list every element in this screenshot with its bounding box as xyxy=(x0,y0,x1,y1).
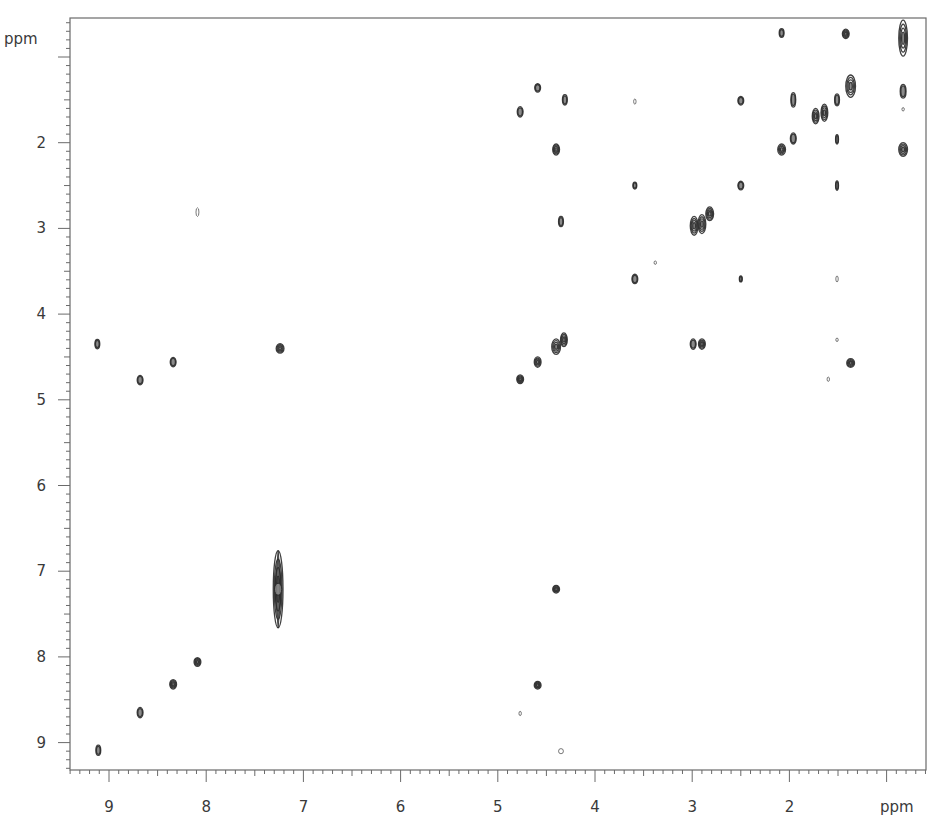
contour-peak xyxy=(791,93,796,108)
contour-peak xyxy=(170,357,176,366)
contour-peak xyxy=(790,133,796,144)
y-axis-unit-label: ppm xyxy=(4,30,38,48)
x-tick-label: 4 xyxy=(590,798,600,816)
contour-peak xyxy=(778,144,786,155)
contour-peak xyxy=(779,29,784,38)
contour-peak xyxy=(847,359,855,368)
x-axis-tick-labels: 98765432 xyxy=(104,798,794,816)
contour-peak xyxy=(706,207,714,221)
nmr-2d-contour-plot: 98765432 23456789 ppm ppm xyxy=(0,0,940,833)
contour-peak xyxy=(900,84,906,98)
contour-peak xyxy=(137,375,143,384)
x-tick-label: 2 xyxy=(785,798,795,816)
contour-peak xyxy=(836,135,839,144)
x-tick-label: 8 xyxy=(201,798,211,816)
contour-peak xyxy=(552,339,561,354)
contour-peak xyxy=(534,681,541,689)
contour-peak xyxy=(559,216,564,226)
y-axis-tick-labels: 23456789 xyxy=(36,134,46,752)
contour-peak xyxy=(699,339,706,349)
y-tick-label: 9 xyxy=(36,734,46,752)
y-tick-label: 6 xyxy=(36,477,46,495)
contour-peak xyxy=(562,95,567,105)
x-tick-label: 9 xyxy=(104,798,114,816)
y-tick-label: 5 xyxy=(36,391,46,409)
contour-peak xyxy=(170,680,177,689)
y-tick-label: 3 xyxy=(36,219,46,237)
contour-peak xyxy=(194,658,201,667)
contour-peak xyxy=(535,84,541,93)
plot-frame xyxy=(70,18,926,770)
contour-peak xyxy=(553,144,560,155)
y-tick-label: 2 xyxy=(36,134,46,152)
contour-peak xyxy=(95,339,100,348)
contour-peak xyxy=(632,274,638,283)
contour-peak xyxy=(96,745,101,755)
contour-peak xyxy=(553,585,560,593)
y-axis xyxy=(58,23,70,769)
contour-peak xyxy=(517,375,524,384)
contour-peak xyxy=(633,182,637,189)
x-tick-label: 6 xyxy=(396,798,406,816)
contour-peak xyxy=(560,333,567,347)
contour-peak xyxy=(276,344,284,353)
contour-peak xyxy=(836,181,839,190)
contour-peak xyxy=(739,276,742,282)
contour-peak xyxy=(137,707,143,717)
y-tick-label: 4 xyxy=(36,305,46,323)
contour-peak xyxy=(842,29,849,38)
contour-peak xyxy=(690,339,696,349)
contour-peak xyxy=(534,357,541,367)
contour-peak xyxy=(899,143,908,157)
contour-peak xyxy=(812,108,819,123)
y-tick-label: 8 xyxy=(36,648,46,666)
contour-peak xyxy=(738,181,744,190)
x-axis-unit-label: ppm xyxy=(880,798,914,816)
contour-peak xyxy=(273,551,283,628)
y-tick-label: 7 xyxy=(36,562,46,580)
contour-peak xyxy=(835,94,840,106)
x-tick-label: 7 xyxy=(299,798,309,816)
contour-peak xyxy=(738,96,744,105)
x-tick-label: 3 xyxy=(687,798,697,816)
x-tick-label: 5 xyxy=(493,798,503,816)
contour-peak xyxy=(517,107,523,117)
x-axis xyxy=(70,770,925,782)
